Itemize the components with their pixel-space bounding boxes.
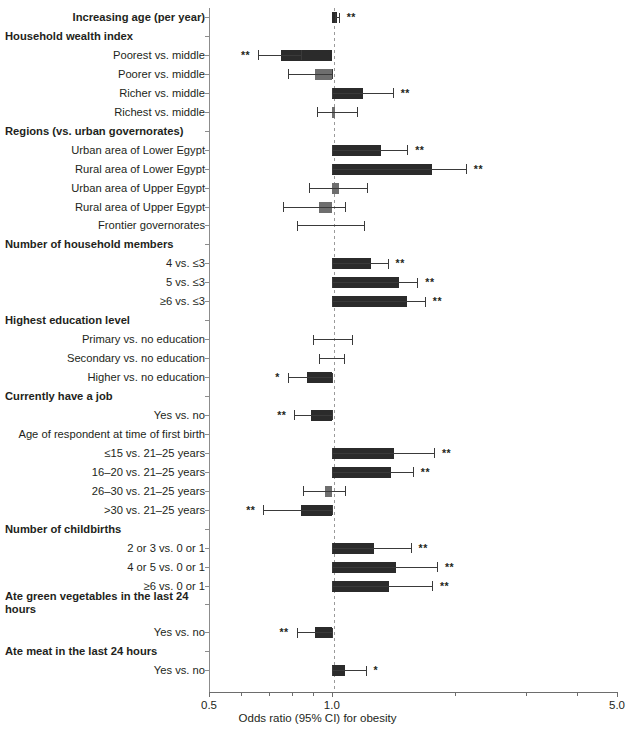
confidence-interval-cap — [332, 88, 333, 98]
significance-marker: ** — [396, 254, 405, 272]
row-tick — [205, 632, 210, 633]
confidence-interval-cap — [263, 505, 264, 515]
row-tick — [205, 244, 210, 245]
forest-row: Richest vs. middle — [0, 103, 635, 121]
row-tick — [205, 434, 210, 435]
forest-row-label: Household wealth index — [5, 27, 205, 45]
row-tick — [205, 339, 210, 340]
forest-row-label: Poorer vs. middle — [0, 65, 205, 83]
confidence-interval-cap — [352, 335, 353, 345]
x-axis-minor-tick — [269, 692, 270, 696]
x-axis-line — [209, 692, 617, 693]
forest-row-label: Increasing age (per year) — [0, 8, 205, 26]
confidence-interval-cap — [367, 183, 368, 193]
confidence-interval-line — [332, 93, 393, 94]
forest-section-header: Highest education level — [0, 311, 635, 329]
confidence-interval-cap — [288, 373, 289, 383]
row-tick — [205, 188, 210, 189]
forest-row-label: Yes vs. no — [0, 406, 205, 424]
forest-row: Yes vs. no* — [0, 661, 635, 679]
forest-row: 16–20 vs. 21–25 years** — [0, 463, 635, 481]
confidence-interval-cap — [301, 50, 302, 60]
row-tick — [205, 150, 210, 151]
confidence-interval-cap — [345, 202, 346, 212]
significance-marker: ** — [440, 577, 449, 595]
row-tick — [205, 586, 210, 587]
confidence-interval-cap — [332, 628, 333, 638]
forest-row-label: Higher vs. no education — [0, 368, 205, 386]
confidence-interval-line — [332, 586, 432, 587]
row-tick — [205, 651, 210, 652]
forest-row: Urban area of Lower Egypt** — [0, 141, 635, 159]
forest-row-label: 5 vs. ≤3 — [0, 273, 205, 291]
forest-row-label: Urban area of Upper Egypt — [0, 179, 205, 197]
forest-row: ≤15 vs. 21–25 years** — [0, 444, 635, 462]
forest-row: Higher vs. no education* — [0, 368, 635, 386]
significance-marker: ** — [474, 160, 483, 178]
confidence-interval-line — [332, 263, 388, 264]
significance-marker: ** — [401, 84, 410, 102]
forest-section-header: Increasing age (per year)** — [0, 8, 635, 26]
confidence-interval-cap — [313, 335, 314, 345]
forest-row-label: Richest vs. middle — [0, 103, 205, 121]
row-tick — [205, 169, 210, 170]
forest-section-header: Household wealth index — [0, 27, 635, 45]
confidence-interval-cap — [294, 410, 295, 420]
confidence-interval-cap — [332, 259, 333, 269]
confidence-interval-line — [332, 548, 411, 549]
forest-row-label: Yes vs. no — [0, 661, 205, 679]
row-tick — [205, 301, 210, 302]
confidence-interval-cap — [332, 69, 333, 79]
significance-marker: ** — [415, 141, 424, 159]
forest-row: 26–30 vs. 21–25 years — [0, 482, 635, 500]
forest-row-label: Yes vs. no — [0, 623, 205, 641]
confidence-interval-line — [297, 632, 332, 633]
significance-marker: ** — [347, 8, 356, 26]
confidence-interval-cap — [303, 486, 304, 496]
row-tick — [205, 453, 210, 454]
forest-row: Primary vs. no education — [0, 330, 635, 348]
significance-marker: ** — [267, 623, 289, 641]
forest-row-label: ≥6 vs. ≤3 — [0, 292, 205, 310]
significance-marker: ** — [264, 406, 286, 424]
confidence-interval-cap — [332, 297, 333, 307]
forest-row-label: Ate meat in the last 24 hours — [5, 642, 205, 660]
confidence-interval-line — [297, 225, 364, 226]
forest-section-header: Number of childbirths — [0, 520, 635, 538]
confidence-interval-cap — [332, 543, 333, 553]
significance-marker: * — [258, 368, 280, 386]
forest-section-header: Ate green vegetables in the last 24 hour… — [0, 595, 635, 613]
significance-marker: ** — [445, 558, 454, 576]
forest-row-label: 26–30 vs. 21–25 years — [0, 482, 205, 500]
confidence-interval-cap — [309, 183, 310, 193]
forest-section-header: Number of household members — [0, 235, 635, 253]
confidence-interval-cap — [332, 145, 333, 155]
forest-row-label: Age of respondent at time of first birth — [0, 425, 205, 443]
row-tick — [205, 131, 210, 132]
confidence-interval-cap — [319, 354, 320, 364]
forest-row: Secondary vs. no education — [0, 349, 635, 367]
row-tick — [205, 472, 210, 473]
confidence-interval-cap — [339, 13, 340, 23]
forest-row: Urban area of Upper Egypt — [0, 179, 635, 197]
forest-row-label: Regions (vs. urban governorates) — [5, 122, 205, 140]
confidence-interval-cap — [317, 107, 318, 117]
confidence-interval-line — [319, 358, 344, 359]
x-axis-title: Odds ratio (95% CI) for obesity — [0, 712, 635, 724]
significance-marker: ** — [442, 444, 451, 462]
row-tick — [205, 93, 210, 94]
significance-marker: ** — [228, 46, 250, 64]
forest-row-label: 4 vs. ≤3 — [0, 254, 205, 272]
confidence-interval-line — [332, 670, 366, 671]
row-tick — [205, 670, 210, 671]
forest-row: Yes vs. no** — [0, 406, 635, 424]
significance-marker: ** — [419, 539, 428, 557]
forest-section-header: Currently have a job — [0, 387, 635, 405]
row-tick — [205, 604, 210, 605]
forest-section-header: Age of respondent at time of first birth — [0, 425, 635, 443]
x-axis-tick-label: 5.0 — [587, 699, 635, 711]
confidence-interval-cap — [425, 297, 426, 307]
row-tick — [205, 36, 210, 37]
forest-row-label: Secondary vs. no education — [0, 349, 205, 367]
forest-row-label: Primary vs. no education — [0, 330, 205, 348]
